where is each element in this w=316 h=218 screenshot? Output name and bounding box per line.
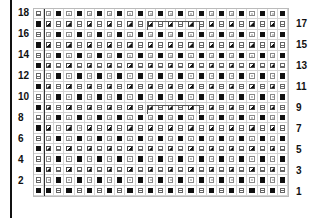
row-number-label: 5	[296, 144, 302, 155]
box-with-circle-icon	[249, 156, 254, 161]
chart-cell	[278, 82, 288, 92]
chart-cell	[227, 113, 237, 123]
diagonal-half-filled-square-icon	[188, 167, 193, 172]
box-with-horizontal-bar-icon	[77, 84, 82, 89]
chart-cell	[166, 144, 176, 154]
box-with-horizontal-bar-icon	[219, 63, 224, 68]
diagonal-half-filled-square-icon	[168, 146, 173, 151]
chart-cell	[197, 165, 207, 175]
chart-cell	[146, 9, 156, 19]
box-with-horizontal-bar-icon	[280, 84, 285, 89]
chart-cell	[258, 92, 268, 102]
chart-cell	[268, 92, 278, 102]
filled-black-square-icon	[127, 188, 132, 193]
box-with-horizontal-bar-icon	[36, 53, 41, 58]
chart-cell	[247, 9, 257, 19]
chart-cell	[125, 71, 135, 81]
chart-cell	[85, 71, 95, 81]
box-with-circle-icon	[148, 32, 153, 37]
chart-cell	[95, 9, 105, 19]
chart-cell	[54, 144, 64, 154]
chart-cell	[95, 123, 105, 133]
chart-cell	[217, 30, 227, 40]
box-with-horizontal-bar-icon	[158, 42, 163, 47]
box-with-horizontal-bar-icon	[97, 63, 102, 68]
box-with-horizontal-bar-icon	[280, 105, 285, 110]
chart-cell	[217, 154, 227, 164]
chart-cell	[207, 9, 217, 19]
chart-cell	[186, 186, 196, 196]
box-with-circle-icon	[270, 73, 275, 78]
diagonal-half-filled-square-icon	[87, 167, 92, 172]
box-with-horizontal-bar-icon	[239, 146, 244, 151]
filled-black-square-icon	[158, 73, 163, 78]
chart-cell	[197, 186, 207, 196]
filled-black-square-icon	[97, 94, 102, 99]
chart-cell	[34, 61, 44, 71]
chart-cell	[146, 113, 156, 123]
box-with-circle-icon	[270, 156, 275, 161]
box-with-horizontal-bar-icon	[239, 167, 244, 172]
box-with-circle-icon	[127, 156, 132, 161]
box-with-horizontal-bar-icon	[36, 94, 41, 99]
chart-cell	[176, 30, 186, 40]
chart-cell	[247, 134, 257, 144]
filled-black-square-icon	[260, 156, 265, 161]
box-with-circle-icon	[188, 156, 193, 161]
box-with-circle-icon	[107, 11, 112, 16]
chart-cell	[34, 103, 44, 113]
filled-black-square-icon	[199, 73, 204, 78]
box-with-circle-icon	[249, 177, 254, 182]
box-with-circle-icon	[168, 156, 173, 161]
chart-cell	[258, 165, 268, 175]
chart-cell	[166, 154, 176, 164]
filled-black-square-icon	[219, 136, 224, 141]
chart-cell	[278, 71, 288, 81]
diagonal-half-filled-square-icon	[188, 63, 193, 68]
chart-cell	[217, 144, 227, 154]
filled-black-square-icon	[239, 177, 244, 182]
chart-cell	[166, 30, 176, 40]
diagonal-half-filled-square-icon	[249, 63, 254, 68]
chart-cell	[247, 175, 257, 185]
chart-cell	[237, 165, 247, 175]
diagonal-half-filled-square-icon	[46, 146, 51, 151]
chart-cell	[207, 61, 217, 71]
chart-cell	[217, 9, 227, 19]
chart-cell	[44, 71, 54, 81]
box-with-circle-icon	[127, 32, 132, 37]
chart-cell	[95, 186, 105, 196]
chart-cell	[166, 134, 176, 144]
box-with-circle-icon	[188, 11, 193, 16]
chart-cell	[166, 71, 176, 81]
box-with-horizontal-bar-icon	[138, 63, 143, 68]
box-with-horizontal-bar-icon	[260, 42, 265, 47]
chart-cell	[125, 30, 135, 40]
box-with-circle-icon	[127, 94, 132, 99]
diagonal-half-filled-square-icon	[229, 21, 234, 26]
filled-black-square-icon	[138, 177, 143, 182]
chart-cell	[237, 113, 247, 123]
chart-cell	[197, 71, 207, 81]
box-with-horizontal-bar-icon	[260, 167, 265, 172]
diagonal-half-filled-square-icon	[168, 84, 173, 89]
diagonal-half-filled-square-icon	[127, 84, 132, 89]
box-with-horizontal-bar-icon	[56, 63, 61, 68]
chart-cell	[166, 92, 176, 102]
chart-cell	[197, 9, 207, 19]
row-number-label: 4	[18, 154, 24, 165]
chart-cell	[237, 103, 247, 113]
chart-cell	[44, 113, 54, 123]
chart-cell	[186, 40, 196, 50]
filled-black-square-icon	[239, 115, 244, 120]
box-with-circle-icon	[209, 115, 214, 120]
diagonal-half-filled-square-icon	[127, 21, 132, 26]
chart-cell	[64, 186, 74, 196]
diagonal-half-filled-square-icon	[127, 146, 132, 151]
chart-cell	[85, 154, 95, 164]
chart-cell	[85, 175, 95, 185]
box-with-circle-icon	[46, 136, 51, 141]
diagonal-half-filled-square-icon	[66, 105, 71, 110]
frame-border-line	[10, 0, 12, 218]
box-with-horizontal-bar-icon	[199, 63, 204, 68]
